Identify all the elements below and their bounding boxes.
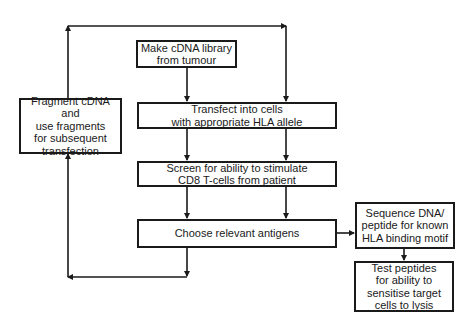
- node-label: Transfect into cells with appropriate HL…: [172, 103, 303, 128]
- node-make-cdna-library: Make cDNA library from tumour: [136, 40, 237, 68]
- node-sequence-dna: Sequence DNA/ peptide for known HLA bind…: [355, 202, 455, 249]
- node-label: Screen for ability to stimulate CD8 T-ce…: [166, 162, 307, 187]
- node-transfect: Transfect into cells with appropriate HL…: [137, 102, 337, 129]
- node-label: Test peptides for ability to sensitise t…: [367, 262, 441, 312]
- node-label: Choose relevant antigens: [175, 227, 300, 240]
- node-choose-antigens: Choose relevant antigens: [137, 219, 337, 248]
- node-label: Sequence DNA/ peptide for known HLA bind…: [362, 207, 449, 245]
- node-fragment-cdna: Fragment cDNA and use fragments for subs…: [19, 98, 122, 154]
- node-label: Make cDNA library from tumour: [141, 42, 232, 67]
- node-test-peptides: Test peptides for ability to sensitise t…: [354, 261, 454, 312]
- node-screen: Screen for ability to stimulate CD8 T-ce…: [137, 161, 337, 187]
- node-label: Fragment cDNA and use fragments for subs…: [21, 95, 120, 158]
